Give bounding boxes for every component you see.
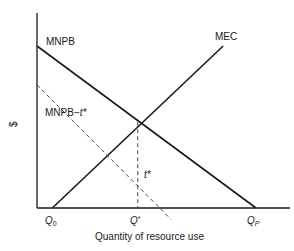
qp-label: QP [247, 215, 260, 227]
externality-diagram: $ MNPB MEC MNPB−t* t* Q0 Q* QP Quantity … [0, 0, 294, 251]
mnpb-line [37, 46, 256, 208]
qstar-label: Q* [130, 215, 141, 226]
mnpb-minus-t-label: MNPB−t* [45, 107, 88, 118]
mnpb-minus-t-var: t* [80, 107, 88, 118]
mec-label: MEC [215, 31, 237, 42]
x-axis-label: Quantity of resource use [95, 231, 204, 242]
qstar-sup: * [138, 215, 141, 222]
q0-label: Q0 [45, 215, 57, 227]
y-axis-label: $ [8, 121, 19, 127]
t-star-label: t* [144, 169, 152, 180]
qp-sub: P [255, 220, 260, 227]
mnpb-minus-t-base: MNPB− [45, 107, 80, 118]
q0-sub: 0 [53, 220, 57, 227]
mnpb-minus-t-line [37, 85, 171, 219]
mnpb-label: MNPB [46, 36, 75, 47]
mec-line [52, 46, 223, 208]
